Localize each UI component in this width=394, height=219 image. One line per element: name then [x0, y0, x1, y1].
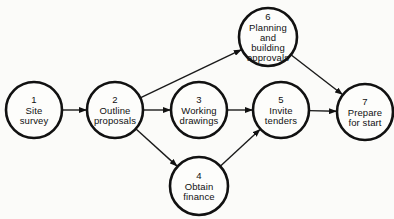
edge-4-to-5 [220, 130, 259, 167]
node-text-line: Prepare [337, 108, 393, 118]
node-number: 6 [240, 12, 296, 22]
node-3-label: 3Workingdrawings [171, 95, 227, 126]
node-text-line: Invite [253, 106, 309, 116]
node-4-label: 4Obtainfinance [171, 171, 227, 202]
node-text-line: building [240, 43, 296, 53]
node-number: 1 [6, 95, 62, 105]
node-text-line: proposals [87, 116, 143, 126]
node-text-line: for start [337, 118, 393, 128]
node-text-line: Site [6, 106, 62, 116]
node-text-line: Obtain [171, 182, 227, 192]
node-1-label: 1Sitesurvey [6, 95, 62, 126]
node-7-label: 7Preparefor start [337, 97, 393, 128]
node-number: 2 [87, 95, 143, 105]
node-text-line: approvals [240, 53, 296, 63]
node-2-label: 2Outlineproposals [87, 95, 143, 126]
node-number: 5 [253, 95, 309, 105]
edge-2-to-4 [136, 129, 177, 166]
node-text-line: tenders [253, 116, 309, 126]
node-text-line: drawings [171, 116, 227, 126]
edge-5-to-7 [309, 111, 336, 112]
node-text-line: Planning [240, 23, 296, 33]
node-number: 3 [171, 95, 227, 105]
node-text-line: finance [171, 192, 227, 202]
node-5-label: 5Invitetenders [253, 95, 309, 126]
node-text-line: and [240, 33, 296, 43]
node-6-label: 6Planningandbuildingapprovals [240, 12, 296, 63]
node-number: 4 [171, 171, 227, 181]
node-number: 7 [337, 97, 393, 107]
node-text-line: survey [6, 116, 62, 126]
node-text-line: Working [171, 106, 227, 116]
node-text-line: Outline [87, 106, 143, 116]
